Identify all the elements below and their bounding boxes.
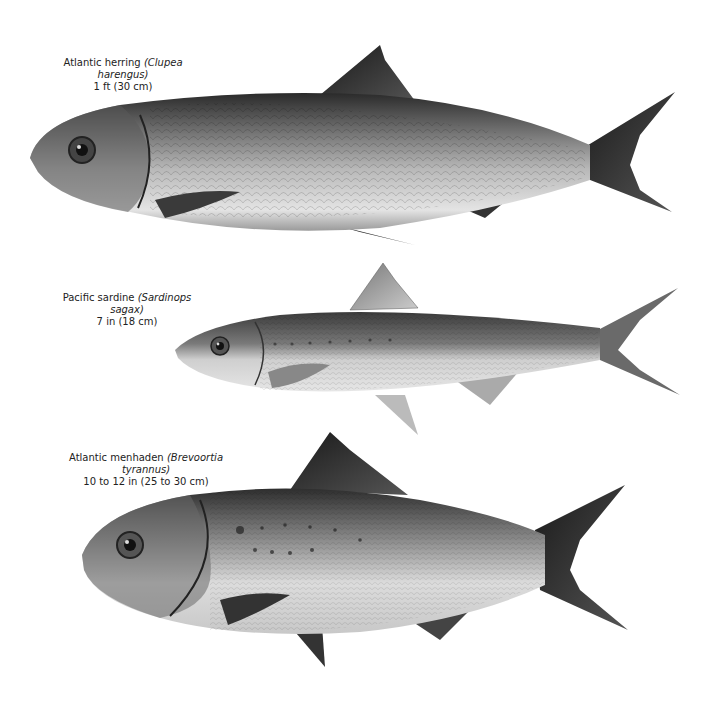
pacific-sardine-illustration [175,263,680,435]
atlantic-herring-illustration [30,45,675,245]
atlantic-menhaden-illustration [82,432,628,667]
fish-illustrations [0,0,726,711]
